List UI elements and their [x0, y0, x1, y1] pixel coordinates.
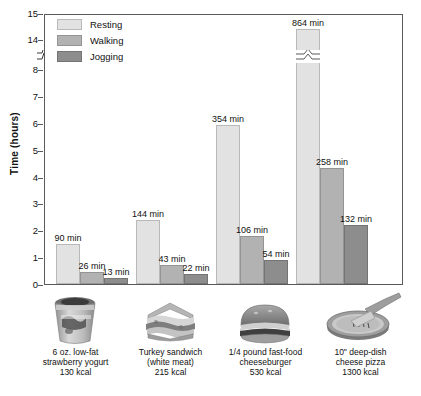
bar-label-resting-group3: 354 min [207, 114, 249, 124]
y-tick-label: 7 [0, 91, 38, 102]
food-item-sandwich: Turkey sandwich (white meat) 215 kcal [123, 291, 218, 377]
food-strip: 6 oz. low-fat strawberry yogurt 130 kcal… [28, 291, 408, 393]
y-tick-label: 1 [0, 252, 38, 263]
bar-break-icon-group4 [296, 49, 320, 62]
y-tick-label: 2 [0, 225, 38, 236]
chart-figure: Time (hours) 1514876543210 90 min144 min… [0, 0, 421, 396]
bar-resting-group4[interactable] [296, 29, 320, 284]
cheeseburger-icon [218, 291, 313, 345]
bar-walking-group3[interactable] [240, 236, 264, 284]
yogurt-cup-icon [28, 291, 123, 345]
food-caption-line2: cheese pizza [313, 357, 408, 367]
y-tick-label: 4 [0, 172, 38, 183]
bar-jogging-group4[interactable] [344, 225, 368, 284]
bar-jogging-group1[interactable] [104, 278, 128, 284]
food-caption-sandwich: Turkey sandwich (white meat) 215 kcal [123, 347, 218, 377]
legend-swatch-resting [57, 19, 82, 30]
y-tick-mark [38, 40, 43, 41]
legend-label-walking: Walking [90, 35, 123, 46]
bar-label-walking-group4: 258 min [311, 157, 353, 167]
food-caption-line2: cheeseburger [218, 357, 313, 367]
y-tick-label: 5 [0, 145, 38, 156]
food-caption-line3: 1300 kcal [313, 367, 408, 377]
bar-jogging-group3[interactable] [264, 260, 288, 284]
food-caption-line2: strawberry yogurt [28, 357, 123, 367]
bar-label-jogging-group2: 22 min [175, 263, 217, 273]
food-caption-line3: 130 kcal [28, 367, 123, 377]
food-item-cheeseburger: 1/4 pound fast-food cheeseburger 530 kca… [218, 291, 313, 377]
bar-label-resting-group1: 90 min [47, 233, 89, 243]
food-caption-pizza: 10" deep-dish cheese pizza 1300 kcal [313, 347, 408, 377]
legend-swatch-walking [57, 35, 82, 46]
deep-dish-pizza-icon [313, 291, 408, 345]
turkey-sandwich-icon [123, 291, 218, 345]
y-tick-mark [38, 14, 43, 15]
food-caption-line3: 215 kcal [123, 367, 218, 377]
food-caption-line1: 6 oz. low-fat [28, 347, 123, 357]
food-caption-line1: 1/4 pound fast-food [218, 347, 313, 357]
food-item-yogurt: 6 oz. low-fat strawberry yogurt 130 kcal [28, 291, 123, 377]
food-caption-cheeseburger: 1/4 pound fast-food cheeseburger 530 kca… [218, 347, 313, 377]
bar-jogging-group2[interactable] [184, 274, 208, 284]
food-caption-line1: 10" deep-dish [313, 347, 408, 357]
y-tick-mark [38, 231, 43, 232]
bar-label-resting-group2: 144 min [127, 209, 169, 219]
food-item-pizza: 10" deep-dish cheese pizza 1300 kcal [313, 291, 408, 377]
y-tick-mark [38, 97, 43, 98]
legend-label-resting: Resting [90, 19, 122, 30]
bar-label-jogging-group3: 54 min [255, 249, 297, 259]
y-tick-label: 3 [0, 198, 38, 209]
food-caption-line3: 530 kcal [218, 367, 313, 377]
food-caption-line2: (white meat) [123, 357, 218, 367]
food-caption-yogurt: 6 oz. low-fat strawberry yogurt 130 kcal [28, 347, 123, 377]
bar-walking-group4[interactable] [320, 168, 344, 284]
y-tick-mark [38, 204, 43, 205]
y-tick-mark [38, 285, 43, 286]
y-tick-mark [38, 70, 43, 71]
y-tick-mark [38, 258, 43, 259]
legend-swatch-jogging [57, 51, 82, 62]
bar-label-resting-group4: 864 min [287, 18, 329, 28]
legend-item-jogging: Jogging [57, 49, 177, 64]
bar-label-jogging-group1: 13 min [95, 267, 137, 277]
y-tick-mark [38, 151, 43, 152]
legend-label-jogging: Jogging [90, 51, 123, 62]
bar-resting-group3[interactable] [216, 125, 240, 284]
y-tick-label: 15 [0, 8, 38, 19]
bar-label-walking-group3: 106 min [231, 225, 273, 235]
legend-item-resting: Resting [57, 17, 177, 32]
y-tick-mark [38, 178, 43, 179]
y-tick-label: 8 [0, 64, 38, 75]
bar-label-jogging-group4: 132 min [335, 214, 377, 224]
food-caption-line1: Turkey sandwich [123, 347, 218, 357]
legend-item-walking: Walking [57, 33, 177, 48]
bar-resting-group2[interactable] [136, 220, 160, 285]
y-tick-mark [38, 124, 43, 125]
y-tick-label: 14 [0, 34, 38, 45]
y-tick-label: 6 [0, 118, 38, 129]
y-tick-label: 0 [0, 279, 38, 290]
legend: Resting Walking Jogging [57, 17, 177, 65]
